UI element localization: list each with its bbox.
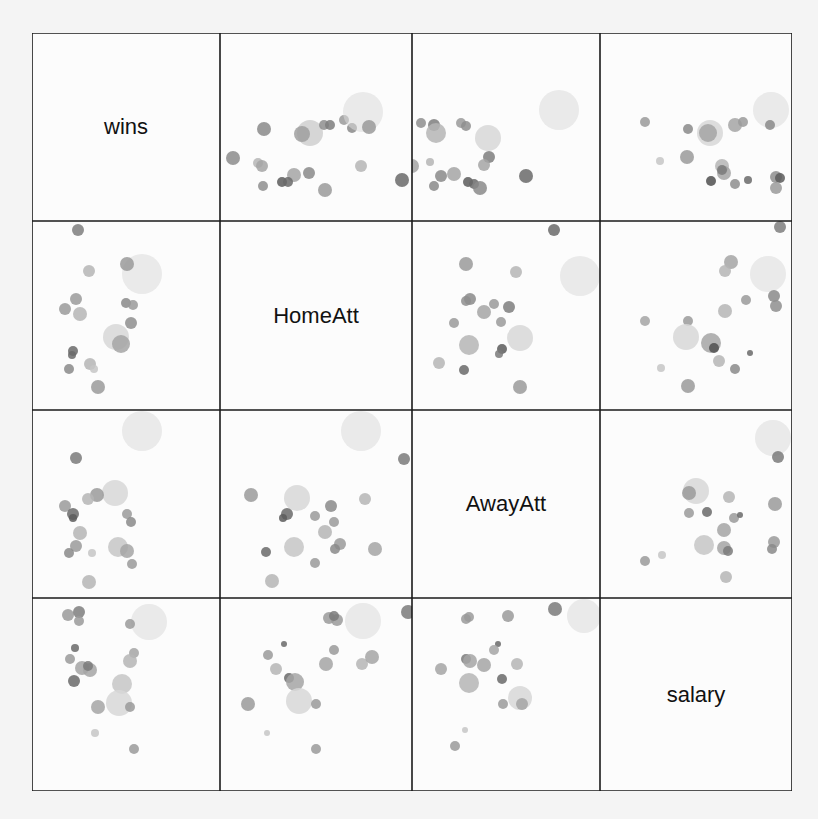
data-point [640,556,650,566]
data-point [128,300,138,310]
data-point [717,523,731,537]
data-point [68,675,80,687]
data-point [263,650,273,660]
data-point [462,727,468,733]
data-point [447,167,461,181]
data-point [325,500,337,512]
data-point [365,650,379,664]
data-point [256,160,268,172]
data-point [401,605,415,619]
data-point [511,658,523,670]
data-point [433,357,445,369]
data-point [489,299,499,309]
data-point [416,118,426,128]
data-point [717,165,727,175]
data-point [82,493,94,505]
data-point [398,453,410,465]
data-point [73,526,87,540]
data-point [59,303,71,315]
data-point [519,169,533,183]
data-point [772,451,784,463]
data-point [318,525,332,539]
data-point [329,645,339,655]
data-point [516,698,528,710]
data-point [311,744,321,754]
data-point [475,125,501,151]
data-point [265,574,279,588]
data-point [463,654,477,668]
data-point [257,122,271,136]
data-point [497,674,507,684]
data-point [284,537,304,557]
data-point [91,380,105,394]
data-point [64,548,74,558]
data-point [244,488,258,502]
data-point [477,305,491,319]
data-point [775,173,785,183]
data-point [459,335,479,355]
data-point [459,673,479,693]
variable-label-wins: wins [104,114,148,140]
data-point [682,486,696,500]
data-point [498,699,508,709]
data-point [435,663,447,675]
data-point [684,508,694,518]
data-point [560,256,600,296]
panel-homeatt-vs-awayatt [433,224,600,394]
data-point [90,365,98,373]
panel-homeatt-vs-wins [59,224,162,394]
data-point [507,325,533,351]
data-point [429,181,439,191]
data-point [310,558,320,568]
data-point [359,493,371,505]
data-point [673,324,699,350]
data-point [131,604,167,640]
data-point [91,729,99,737]
data-point [129,744,139,754]
data-point [768,497,782,511]
data-point [127,559,137,569]
data-point [694,535,714,555]
data-point [281,641,287,647]
data-point [303,167,315,179]
data-point [65,654,75,664]
data-point [294,126,310,142]
data-point [657,364,665,372]
data-point [362,120,376,134]
panel-wins-vs-awayatt [405,90,579,195]
data-point [325,120,335,130]
data-point [567,599,601,633]
data-point [640,316,650,326]
data-point [450,741,460,751]
data-point [737,512,743,518]
panel-awayatt-vs-wins [59,411,162,589]
data-point [102,480,128,506]
data-point [747,350,753,356]
scatterplot-matrix: wins HomeAtt AwayAtt salary [32,33,792,791]
data-point [656,157,664,165]
data-point [459,365,469,375]
data-point [88,549,96,557]
variable-label-homeatt: HomeAtt [273,303,359,329]
panel-awayatt-vs-homeatt [244,411,410,588]
data-point [68,351,76,359]
data-point [720,571,732,583]
data-point [449,318,459,328]
data-point [741,295,751,305]
data-point [473,181,487,195]
data-point [284,485,310,511]
data-point [72,224,84,236]
data-point [718,304,732,318]
data-point [62,609,74,621]
data-point [264,730,270,736]
data-point [82,575,96,589]
data-point [478,159,490,171]
data-point [510,266,522,278]
panel-wins-vs-salary [640,92,789,194]
data-point [329,611,339,621]
data-point [368,542,382,556]
data-point [702,507,712,517]
data-point [74,616,84,626]
panel-awayatt-vs-salary [640,420,791,583]
panel-homeatt-vs-salary [640,221,786,393]
